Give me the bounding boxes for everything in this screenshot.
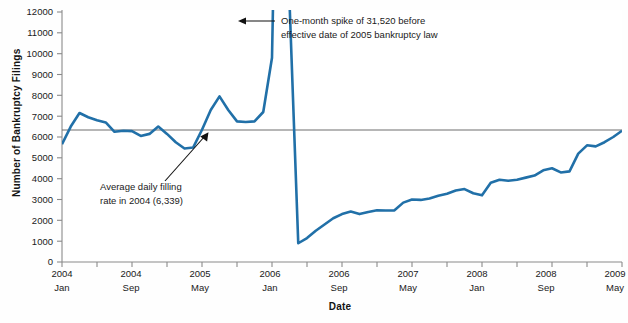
x-tick-label-year: 2009 bbox=[604, 268, 625, 279]
y-tick-label: 9000 bbox=[32, 69, 53, 80]
y-tick-label: 11000 bbox=[27, 27, 53, 38]
x-tick-labels: 2004 Jan 2004 Sep 2005 May 2006 Jan 2006… bbox=[51, 268, 625, 293]
bankruptcy-filings-line-chart: 0 1000 2000 3000 4000 5000 6000 7000 800… bbox=[0, 0, 628, 323]
x-tick-label-month: Sep bbox=[123, 282, 140, 293]
x-tick-label-year: 2004 bbox=[120, 268, 141, 279]
x-tick-label-year: 2008 bbox=[535, 268, 556, 279]
x-tick-label-month: May bbox=[191, 282, 209, 293]
spike-annotation-line2: effective date of 2005 bankruptcy law bbox=[281, 29, 438, 40]
x-tick-marks bbox=[62, 262, 622, 267]
x-tick-label-year: 2006 bbox=[259, 268, 280, 279]
y-tick-label: 5000 bbox=[32, 152, 53, 163]
y-tick-labels: 0 1000 2000 3000 4000 5000 6000 7000 800… bbox=[27, 6, 53, 267]
y-tick-marks bbox=[57, 12, 62, 262]
x-tick-label-month: Jan bbox=[54, 282, 69, 293]
x-tick-label-year: 2007 bbox=[397, 268, 418, 279]
y-tick-label: 3000 bbox=[32, 194, 53, 205]
y-axis-title: Number of Bankruptcy Filings bbox=[11, 48, 22, 197]
y-tick-label: 4000 bbox=[32, 173, 53, 184]
x-tick-label-month: Jan bbox=[262, 282, 277, 293]
x-tick-label-year: 2004 bbox=[51, 268, 72, 279]
average-annotation-line2: rate in 2004 (6,339) bbox=[100, 195, 183, 206]
average-annotation-line1: Average daily filling bbox=[100, 181, 182, 192]
spike-annotation-line1: One-month spike of 31,520 before bbox=[281, 15, 425, 26]
x-tick-label-month: Sep bbox=[538, 282, 555, 293]
x-tick-label-month: Jan bbox=[469, 282, 484, 293]
y-tick-label: 2000 bbox=[32, 215, 53, 226]
x-tick-label-year: 2008 bbox=[466, 268, 487, 279]
y-tick-label: 8000 bbox=[32, 90, 53, 101]
x-tick-label-year: 2006 bbox=[328, 268, 349, 279]
y-tick-label: 7000 bbox=[32, 111, 53, 122]
x-axis-title: Date bbox=[329, 301, 352, 312]
x-tick-label-month: May bbox=[399, 282, 417, 293]
y-tick-label: 10000 bbox=[27, 48, 53, 59]
y-tick-label: 0 bbox=[48, 256, 53, 267]
y-tick-label: 1000 bbox=[32, 236, 53, 247]
x-tick-label-month: May bbox=[606, 282, 624, 293]
y-tick-label: 12000 bbox=[27, 6, 53, 17]
chart-container: 0 1000 2000 3000 4000 5000 6000 7000 800… bbox=[0, 0, 628, 323]
x-tick-label-month: Sep bbox=[331, 282, 348, 293]
y-tick-label: 6000 bbox=[32, 131, 53, 142]
x-tick-label-year: 2005 bbox=[189, 268, 210, 279]
